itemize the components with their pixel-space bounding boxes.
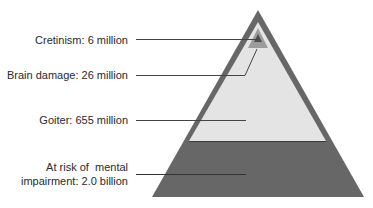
label-at-risk-line1: At risk of mental (21, 160, 128, 174)
pyramid-diagram: Cretinism: 6 million Brain damage: 26 mi… (0, 0, 373, 208)
label-brain-damage: Brain damage: 26 million (7, 68, 128, 82)
label-goiter: Goiter: 655 million (39, 113, 128, 127)
label-at-risk: At risk of mental impairment: 2.0 billio… (21, 160, 128, 188)
label-cretinism: Cretinism: 6 million (35, 33, 128, 47)
label-at-risk-line2: impairment: 2.0 billion (21, 174, 128, 188)
